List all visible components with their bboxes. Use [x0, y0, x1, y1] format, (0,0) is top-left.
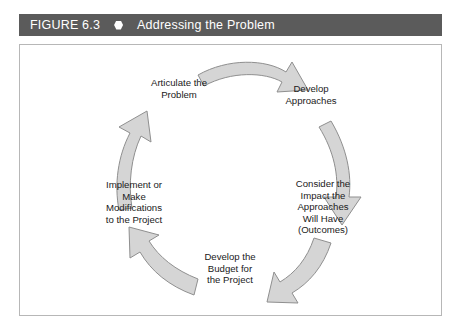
stage-label-develop-approaches: Develop Approaches [256, 83, 366, 106]
figure-content-box: Articulate the Problem Develop Approache… [19, 44, 442, 316]
stage-label-develop-the-budget: Develop the Budget for the Project [178, 251, 282, 286]
figure-number-label: FIGURE 6.3 [30, 18, 100, 32]
figure-header-bar: FIGURE 6.3 Addressing the Problem [19, 14, 442, 36]
figure-title: Addressing the Problem [137, 18, 275, 32]
stage-label-articulate-the-problem: Articulate the Problem [124, 77, 234, 100]
stage-label-consider-the-impact: Consider the Impact the Approaches Will … [272, 178, 374, 236]
hexagon-bullet-icon [114, 21, 123, 30]
stage-label-implement-or-modify: Implement or Make Modifications to the P… [78, 179, 190, 225]
